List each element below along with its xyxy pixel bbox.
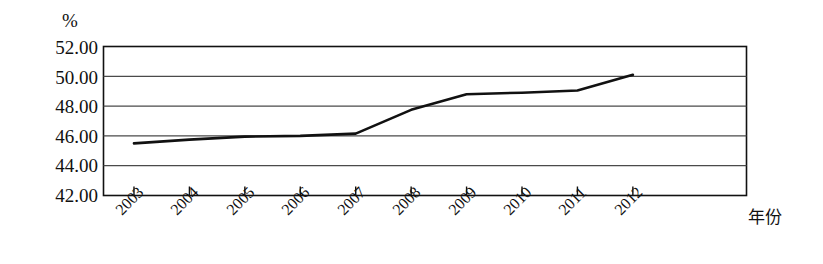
chart-canvas <box>0 0 823 264</box>
line-chart: % 52.00 50.00 48.00 46.00 44.00 42.00 20… <box>0 0 823 264</box>
data-series-line <box>134 75 633 144</box>
x-axis-ticks <box>134 187 633 196</box>
x-axis-title: 年份 <box>748 203 782 228</box>
plot-area-border <box>104 47 747 196</box>
gridlines <box>104 76 747 165</box>
